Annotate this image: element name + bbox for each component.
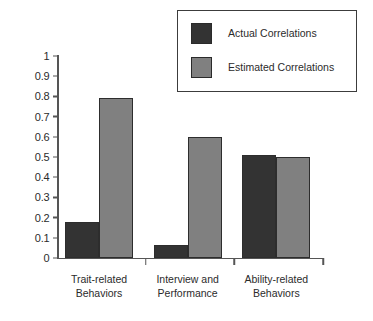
x-axis-category-label-line: Interview and bbox=[143, 272, 232, 286]
y-axis-tick: 0.2 bbox=[35, 212, 57, 223]
y-axis-tick-label: 0.1 bbox=[35, 232, 50, 243]
grouped-bar-chart: Actual Correlations Estimated Correlatio… bbox=[0, 0, 373, 321]
y-axis-tick-label: 0.4 bbox=[35, 172, 50, 183]
y-axis-tick: 0.5 bbox=[35, 152, 57, 163]
y-axis-tick: 0.7 bbox=[35, 111, 57, 122]
x-axis-category-label-line: Behaviors bbox=[232, 286, 321, 300]
bar-estimated-correlation bbox=[188, 137, 222, 258]
y-axis-tick-label: 0.5 bbox=[35, 152, 50, 163]
legend-item-actual-correlations: Actual Correlations bbox=[191, 22, 317, 44]
y-axis-tick: 0.4 bbox=[35, 172, 57, 183]
bar-actual-correlation bbox=[242, 155, 276, 258]
legend-swatch-actual-icon bbox=[191, 23, 212, 44]
bar-group bbox=[234, 56, 323, 258]
y-axis-tick-label: 0 bbox=[44, 253, 50, 264]
y-axis-tick: 1 bbox=[44, 51, 57, 62]
legend-label-actual: Actual Correlations bbox=[228, 28, 317, 39]
x-axis-tick-mark bbox=[322, 258, 324, 265]
bar-estimated-correlation bbox=[276, 157, 310, 258]
x-axis-category-label-line: Behaviors bbox=[55, 286, 144, 300]
bar-actual-correlation bbox=[154, 245, 188, 258]
y-axis-tick-label: 0.2 bbox=[35, 212, 50, 223]
y-axis-tick-label: 0.7 bbox=[35, 111, 50, 122]
y-axis-tick-label: 0.9 bbox=[35, 71, 50, 82]
x-axis-category-label: Ability-relatedBehaviors bbox=[232, 272, 321, 300]
y-axis-tick: 0.3 bbox=[35, 192, 57, 203]
x-axis-category-label-line: Performance bbox=[143, 286, 232, 300]
x-axis-category-label-line: Trait-related bbox=[55, 272, 144, 286]
x-axis-tick-mark bbox=[234, 258, 236, 265]
x-axis-tick-mark bbox=[145, 258, 147, 265]
bar-estimated-correlation bbox=[99, 98, 133, 258]
plot-area: 10.90.80.70.60.50.40.30.20.10 bbox=[57, 56, 323, 258]
x-axis-category-label: Interview andPerformance bbox=[143, 272, 232, 300]
y-axis-tick-label: 0.3 bbox=[35, 192, 50, 203]
y-axis-tick-label: 0.6 bbox=[35, 131, 50, 142]
y-axis-tick: 0.8 bbox=[35, 91, 57, 102]
y-axis-tick-label: 1 bbox=[44, 51, 50, 62]
y-axis-tick: 0.1 bbox=[35, 232, 57, 243]
x-axis-category-label-line: Ability-related bbox=[232, 272, 321, 286]
x-axis-category-label: Trait-relatedBehaviors bbox=[55, 272, 144, 300]
y-axis-tick: 0 bbox=[44, 253, 57, 264]
y-axis-tick: 0.6 bbox=[35, 131, 57, 142]
bar-actual-correlation bbox=[65, 222, 99, 258]
bar-group bbox=[57, 56, 146, 258]
y-axis-tick-label: 0.8 bbox=[35, 91, 50, 102]
bar-group bbox=[146, 56, 235, 258]
y-axis-tick: 0.9 bbox=[35, 71, 57, 82]
